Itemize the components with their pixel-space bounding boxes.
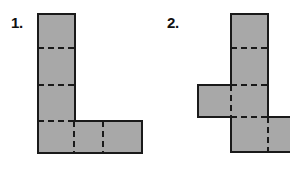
net-figures-svg (0, 0, 290, 190)
figure-2-group (198, 14, 290, 152)
figure-1-outline (38, 14, 142, 153)
figures-canvas: 1. 2. (0, 0, 290, 190)
figure-2-outline (198, 14, 290, 152)
figure-1-group (38, 14, 142, 153)
